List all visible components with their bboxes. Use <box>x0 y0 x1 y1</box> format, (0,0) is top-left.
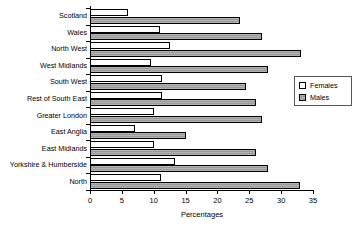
y-axis-tick <box>86 25 91 26</box>
legend-item-males: Males <box>299 92 329 103</box>
bar-males <box>90 116 262 123</box>
legend-label-females: Females <box>310 82 338 90</box>
legend-swatch-females-icon <box>299 82 306 89</box>
x-axis-tick <box>217 190 218 194</box>
bar-males <box>90 17 240 24</box>
bar-males <box>90 50 301 57</box>
bar-females <box>90 75 162 82</box>
bar-females <box>90 59 151 66</box>
y-axis-tick <box>86 173 91 174</box>
bar-males <box>90 165 268 172</box>
category-label: South West <box>0 78 87 86</box>
x-axis-tick <box>249 190 250 194</box>
x-axis-tick-label: 5 <box>110 196 134 205</box>
x-axis-tick <box>313 190 314 194</box>
x-axis-tick <box>122 190 123 194</box>
bar-females <box>90 92 162 99</box>
y-axis-tick <box>86 124 91 125</box>
x-axis-tick <box>90 190 91 194</box>
x-axis-tick <box>186 190 187 194</box>
x-axis-tick-label: 30 <box>269 196 293 205</box>
y-axis-tick <box>86 140 91 141</box>
x-axis-tick-label: 0 <box>78 196 102 205</box>
bar-females <box>90 26 160 33</box>
category-label: West Midlands <box>0 62 87 70</box>
y-axis-tick <box>86 91 91 92</box>
bar-females <box>90 141 154 148</box>
bar-males <box>90 182 300 189</box>
x-axis-tick-label: 35 <box>301 196 325 205</box>
chart-legend: Females Males <box>294 76 352 106</box>
bar-males <box>90 66 268 73</box>
bar-females <box>90 125 135 132</box>
y-axis-tick <box>86 157 91 158</box>
category-axis-labels: ScotlandWalesNorth WestWest MidlandsSout… <box>0 8 87 190</box>
category-label: Rest of South East <box>0 95 87 103</box>
x-axis-tick <box>281 190 282 194</box>
x-axis-title: Percentages <box>90 210 314 219</box>
x-axis-tick <box>154 190 155 194</box>
legend-swatch-males-icon <box>299 94 306 101</box>
y-axis-tick <box>86 58 91 59</box>
bar-chart: ScotlandWalesNorth WestWest MidlandsSout… <box>0 0 356 233</box>
category-label: Yorkshire & Humberside <box>0 161 87 169</box>
bar-males <box>90 33 262 40</box>
y-axis-tick <box>86 74 91 75</box>
legend-item-females: Females <box>299 80 338 91</box>
y-axis-tick <box>86 107 91 108</box>
bar-females <box>90 108 154 115</box>
category-label: North West <box>0 45 87 53</box>
category-label: East Anglia <box>0 128 87 136</box>
x-axis-tick-label: 25 <box>237 196 261 205</box>
x-axis-tick-label: 15 <box>174 196 198 205</box>
category-label: East Midlands <box>0 145 87 153</box>
bar-males <box>90 83 246 90</box>
x-axis-tick-label: 20 <box>205 196 229 205</box>
bar-females <box>90 158 175 165</box>
bar-males <box>90 132 186 139</box>
plot-area <box>90 8 313 190</box>
bar-males <box>90 99 256 106</box>
category-label: Scotland <box>0 12 87 20</box>
bar-males <box>90 149 256 156</box>
y-axis-tick <box>86 8 91 9</box>
bar-females <box>90 9 128 16</box>
category-label: Wales <box>0 29 87 37</box>
y-axis-tick <box>86 41 91 42</box>
category-label: North <box>0 178 87 186</box>
category-label: Greater London <box>0 112 87 120</box>
bar-females <box>90 174 161 181</box>
bar-females <box>90 42 170 49</box>
legend-label-males: Males <box>310 94 329 102</box>
x-axis-tick-label: 10 <box>142 196 166 205</box>
